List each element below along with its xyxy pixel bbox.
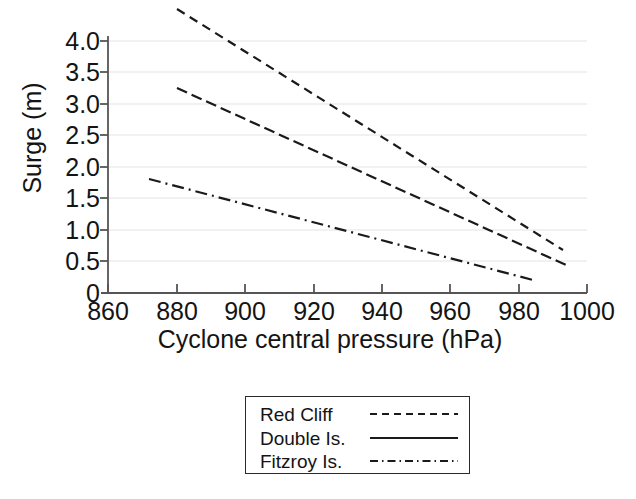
- legend-swatch-dash-dot: [370, 454, 458, 468]
- chart-legend: Red Cliff Double Is. Fitzroy Is.: [245, 396, 470, 474]
- legend-swatch-dashed: [370, 407, 458, 421]
- legend-item-fitzroy-is: Fitzroy Is.: [246, 448, 469, 474]
- x-tick-label: 980: [498, 299, 540, 324]
- surge-vs-pressure-chart: Surge (m) 4.0 3.5 3.0 2.5 2.0 1.5 1.0 0.…: [0, 0, 636, 499]
- x-tick-label: 900: [224, 299, 266, 324]
- series-line-double-is: [177, 88, 566, 265]
- x-tick-label: 960: [429, 299, 471, 324]
- x-tick-label: 860: [87, 299, 129, 324]
- plot-area: [0, 0, 636, 340]
- legend-item-red-cliff: Red Cliff: [246, 401, 469, 427]
- series-lines: [149, 9, 566, 280]
- legend-label: Red Cliff: [260, 405, 333, 424]
- series-line-red-cliff: [177, 9, 563, 250]
- x-tick-label: 880: [156, 299, 198, 324]
- x-tick-label: 920: [293, 299, 335, 324]
- x-axis-title: Cyclone central pressure (hPa): [70, 325, 590, 354]
- legend-label: Double Is.: [260, 429, 346, 448]
- y-axis-ticks: [100, 41, 108, 261]
- gridlines: [108, 41, 587, 261]
- legend-swatch-solid: [370, 431, 458, 445]
- x-tick-label: 1000: [559, 299, 615, 324]
- x-tick-label: 940: [361, 299, 403, 324]
- x-axis-ticks: [108, 284, 587, 293]
- legend-label: Fitzroy Is.: [260, 452, 342, 471]
